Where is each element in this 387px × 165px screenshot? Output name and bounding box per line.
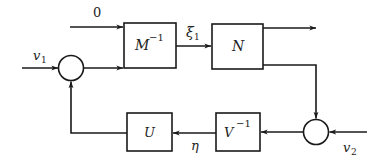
- svg-text:v: v: [343, 140, 351, 155]
- block-m-inverse: M −1: [124, 23, 176, 68]
- svg-text:1: 1: [41, 55, 47, 65]
- feedback-path: [71, 82, 127, 134]
- sum-junction-right: [304, 120, 329, 145]
- svg-text:v: v: [33, 48, 41, 63]
- svg-text:V: V: [224, 125, 235, 140]
- v2-label: v 2: [343, 140, 357, 157]
- svg-text:2: 2: [351, 147, 357, 157]
- block-diagram: 0 v 1 M −1 ξ 1 N v: [0, 0, 387, 165]
- block-v-inverse: V −1: [216, 113, 260, 151]
- block-u: U: [127, 113, 172, 151]
- sum-junction-left: [59, 56, 84, 81]
- svg-text:1: 1: [194, 32, 200, 42]
- block-n: N: [212, 24, 263, 69]
- eta-label: η: [191, 138, 199, 153]
- svg-text:−1: −1: [149, 32, 164, 43]
- v1-label: v 1: [33, 48, 47, 65]
- xi1-label: ξ 1: [186, 24, 200, 42]
- zero-input-label: 0: [93, 5, 101, 20]
- svg-text:N: N: [231, 38, 245, 54]
- n-to-right-sum-path: [263, 65, 316, 119]
- svg-text:U: U: [144, 125, 156, 140]
- svg-text:−1: −1: [236, 118, 251, 129]
- svg-text:M: M: [134, 37, 150, 53]
